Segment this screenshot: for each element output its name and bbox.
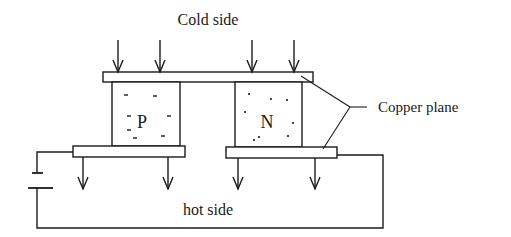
- copper-plane-leader: [301, 76, 367, 149]
- thermoelectric-diagram: Cold side hot side Copper plane P N: [0, 0, 511, 237]
- copper-plane-label: Copper plane: [378, 99, 459, 115]
- hot-side-label: hot side: [183, 201, 233, 218]
- p-type-label: P: [137, 112, 147, 132]
- n-type-label: N: [261, 112, 274, 132]
- cold-side-label: Cold side: [178, 11, 239, 28]
- battery-icon: [28, 173, 53, 188]
- cold-side-arrows: [113, 40, 299, 72]
- hot-side-arrows: [78, 157, 320, 189]
- bottom-left-copper-plate: [73, 146, 185, 157]
- top-copper-plate: [103, 72, 313, 82]
- bottom-right-copper-plate: [226, 147, 337, 158]
